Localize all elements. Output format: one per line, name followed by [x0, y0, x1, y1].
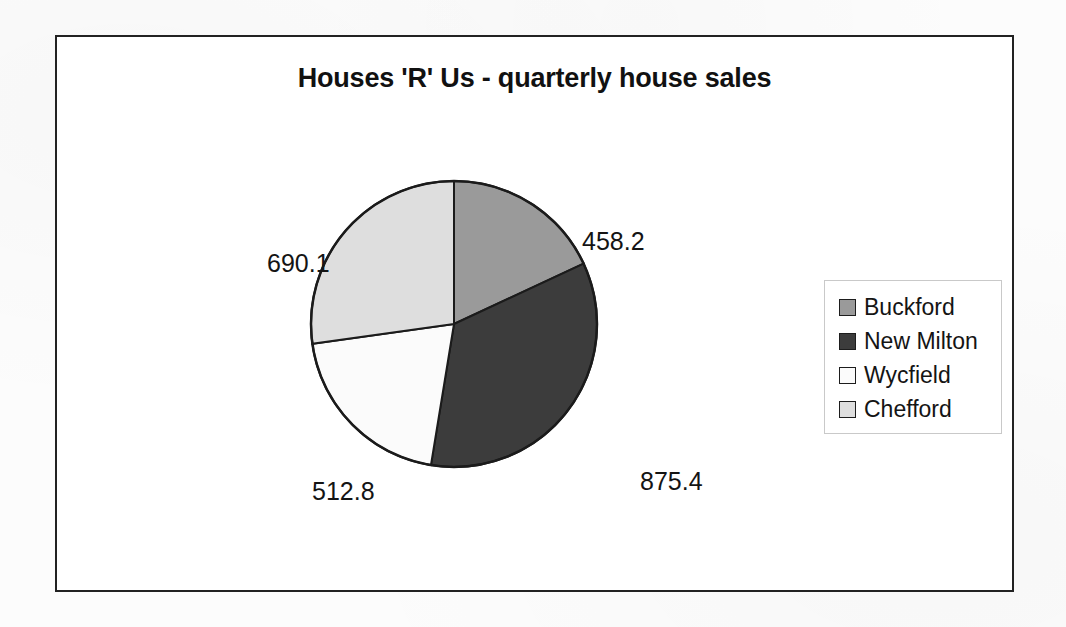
legend-label-buckford: Buckford — [864, 296, 955, 319]
data-label-wycfield: 512.8 — [312, 477, 375, 506]
legend-label-new-milton: New Milton — [864, 330, 978, 353]
pie-chart — [304, 174, 604, 474]
data-label-chefford: 690.1 — [267, 249, 330, 278]
chart-legend: Buckford New Milton Wycfield Chefford — [824, 280, 1002, 434]
legend-swatch-wycfield — [839, 367, 856, 384]
legend-item-wycfield[interactable]: Wycfield — [839, 358, 1001, 392]
pie-slices — [311, 181, 597, 467]
pie-slice-chefford[interactable] — [311, 181, 454, 344]
legend-item-buckford[interactable]: Buckford — [839, 290, 1001, 324]
legend-label-chefford: Chefford — [864, 398, 952, 421]
legend-swatch-chefford — [839, 401, 856, 418]
legend-item-new-milton[interactable]: New Milton — [839, 324, 1001, 358]
pie-chart-svg — [304, 174, 604, 474]
legend-swatch-new-milton — [839, 333, 856, 350]
data-label-buckford: 458.2 — [582, 227, 645, 256]
pie-slice-wycfield[interactable] — [312, 324, 454, 465]
legend-item-chefford[interactable]: Chefford — [839, 392, 1001, 426]
legend-swatch-buckford — [839, 299, 856, 316]
data-label-new-milton: 875.4 — [640, 467, 703, 496]
chart-frame: Houses 'R' Us - quarterly house sales 45… — [55, 35, 1014, 592]
legend-label-wycfield: Wycfield — [864, 364, 951, 387]
chart-title: Houses 'R' Us - quarterly house sales — [57, 63, 1012, 94]
